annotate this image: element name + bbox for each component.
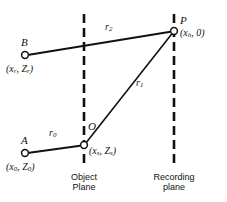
plane-caption-object: Object Plane <box>54 172 114 193</box>
ray-geometry-diagram: B A O P (xr, Zr) (x0, Z0) (xs, Zs) (xh, … <box>0 0 227 202</box>
point-label-P: P <box>180 15 187 26</box>
point-label-O: O <box>88 121 96 132</box>
point-label-B: B <box>21 37 28 48</box>
coord-close: ) <box>30 63 33 74</box>
point-coord-P: (xh, 0) <box>180 28 205 39</box>
point-marker-A <box>22 150 29 157</box>
ray-subscript: 1 <box>140 81 144 89</box>
plane-caption-object-line2: Plane <box>54 182 114 192</box>
coord-close: ) <box>201 27 204 38</box>
ray-r1-line <box>86 33 173 144</box>
coord-close: ) <box>31 161 34 172</box>
plane-caption-recording-line1: Recording <box>139 172 209 182</box>
plane-caption-recording: Recording plane <box>139 172 209 193</box>
ray-label-r1: r1 <box>136 78 143 89</box>
ray-r0-line <box>28 146 83 154</box>
coord-close: ) <box>113 145 116 156</box>
point-marker-O <box>81 142 88 149</box>
ray-label-r0: r0 <box>49 128 56 139</box>
point-marker-P <box>171 28 178 35</box>
plane-caption-object-line1: Object <box>54 172 114 182</box>
plane-caption-recording-line2: plane <box>139 182 209 192</box>
ray-r2-line <box>28 32 173 56</box>
point-label-A: A <box>21 135 28 146</box>
point-marker-B <box>22 52 29 59</box>
ray-subscript: 2 <box>109 25 113 33</box>
point-coord-B: (xr, Zr) <box>6 64 33 75</box>
ray-label-r2: r2 <box>105 22 112 33</box>
point-coord-A: (x0, Z0) <box>6 162 35 173</box>
point-coord-O: (xs, Zs) <box>89 146 116 157</box>
ray-subscript: 0 <box>53 131 57 139</box>
